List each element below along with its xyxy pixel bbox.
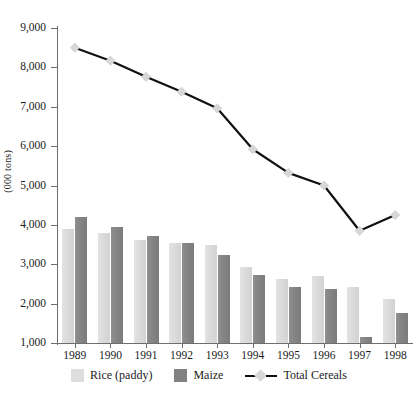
legend-line-diamond-icon: [245, 369, 277, 382]
legend-label-maize: Maize: [193, 368, 223, 383]
bar-rice: [205, 245, 217, 343]
bar-maize: [111, 227, 123, 343]
y-tick-label: 6,000: [0, 140, 46, 152]
bar-maize: [253, 275, 265, 344]
y-tick-label: 5,000: [0, 180, 46, 192]
x-tick: [288, 343, 289, 348]
cereal-production-chart: (000 tons) 1,0002,0003,0004,0005,0006,00…: [0, 0, 418, 396]
y-tick-label: 2,000: [0, 298, 46, 310]
x-tick: [146, 343, 147, 348]
bar-maize: [360, 337, 372, 343]
plot-area: [57, 28, 413, 343]
bar-rice: [240, 267, 252, 343]
legend-swatch-rice-icon: [71, 369, 84, 382]
y-tick-label: 7,000: [0, 101, 46, 113]
bar-rice: [312, 276, 324, 343]
x-tick: [75, 343, 76, 348]
bar-maize: [182, 243, 194, 343]
y-tick-label: 8,000: [0, 61, 46, 73]
bar-maize: [75, 217, 87, 343]
bar-rice: [98, 233, 110, 343]
legend-swatch-maize-icon: [174, 369, 187, 382]
y-tick-label: 3,000: [0, 258, 46, 270]
x-tick: [253, 343, 254, 348]
bar-maize: [396, 313, 408, 343]
chart-legend: Rice (paddy) Maize Total Cereals: [0, 368, 418, 383]
bar-maize: [325, 289, 337, 343]
x-tick-label: 1998: [372, 350, 418, 362]
bar-rice: [62, 229, 74, 343]
legend-item-rice: Rice (paddy): [71, 368, 152, 383]
y-tick-label: 9,000: [0, 22, 46, 34]
x-tick: [324, 343, 325, 348]
legend-item-total-cereals: Total Cereals: [245, 368, 346, 383]
bar-rice: [169, 243, 181, 343]
x-tick: [217, 343, 218, 348]
x-tick: [110, 343, 111, 348]
bar-maize: [147, 236, 159, 343]
x-tick: [360, 343, 361, 348]
y-tick: [51, 343, 57, 344]
bar-rice: [276, 279, 288, 343]
bar-rice: [383, 299, 395, 343]
x-tick: [395, 343, 396, 348]
bar-rice: [347, 287, 359, 343]
y-tick-label: 4,000: [0, 219, 46, 231]
bar-maize: [218, 255, 230, 343]
bar-rice: [134, 240, 146, 343]
bar-maize: [289, 287, 301, 343]
x-tick: [182, 343, 183, 348]
legend-label-rice: Rice (paddy): [90, 368, 152, 383]
legend-label-total-cereals: Total Cereals: [283, 368, 346, 383]
legend-item-maize: Maize: [174, 368, 223, 383]
y-tick-label: 1,000: [0, 337, 46, 349]
